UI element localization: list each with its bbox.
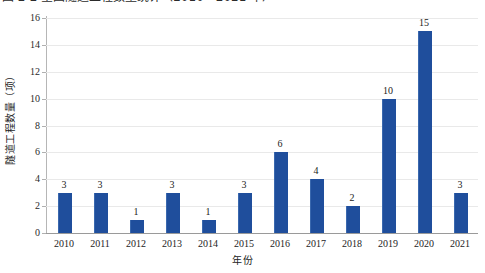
bar[interactable] (418, 31, 432, 233)
x-axis-title: 年份 (0, 255, 485, 266)
x-axis-tick-label: 2012 (116, 238, 156, 249)
bar[interactable] (274, 152, 288, 233)
y-axis-tick-mark (42, 179, 46, 180)
bar-value-label: 3 (49, 180, 79, 190)
bar-value-label: 10 (373, 86, 403, 96)
y-axis-tick-label: 4 (18, 174, 40, 184)
y-axis-tick-mark (42, 126, 46, 127)
bar-value-label: 3 (445, 180, 475, 190)
bar-value-label: 1 (121, 207, 151, 217)
y-axis-tick-mark (42, 45, 46, 46)
y-axis-tick-label: 8 (18, 121, 40, 131)
y-axis-tick-mark (42, 99, 46, 100)
x-axis-tick-label: 2011 (80, 238, 120, 249)
x-axis-line (46, 233, 478, 234)
bar-value-label: 4 (301, 166, 331, 176)
bar[interactable] (58, 193, 72, 233)
plot-area (46, 18, 478, 233)
gridline (46, 206, 478, 207)
bar[interactable] (382, 99, 396, 233)
y-axis-tick-label: 2 (18, 201, 40, 211)
gridline (46, 72, 478, 73)
bar-value-label: 1 (193, 207, 223, 217)
x-axis-tick-label: 2021 (440, 238, 480, 249)
x-axis-tick-label: 2010 (44, 238, 84, 249)
y-axis-tick-labels: 0246810121416 (12, 0, 40, 273)
y-axis-tick-mark (42, 18, 46, 19)
gridline (46, 45, 478, 46)
y-axis-tick-mark (42, 233, 46, 234)
bar-value-label: 3 (229, 180, 259, 190)
bar-value-label: 6 (265, 139, 295, 149)
gridline (46, 126, 478, 127)
bar-value-label: 2 (337, 193, 367, 203)
x-axis-tick-label: 2018 (332, 238, 372, 249)
bar-value-label: 15 (409, 18, 439, 28)
bar[interactable] (238, 193, 252, 233)
x-axis-tick-label: 2016 (260, 238, 300, 249)
x-axis-tick-label: 2019 (368, 238, 408, 249)
y-axis-tick-label: 10 (18, 94, 40, 104)
x-axis-tick-label: 2014 (188, 238, 228, 249)
y-axis-tick-mark (42, 152, 46, 153)
x-axis-tick-label: 2017 (296, 238, 336, 249)
bar[interactable] (454, 193, 468, 233)
y-axis-tick-label: 6 (18, 147, 40, 157)
x-axis-tick-label: 2013 (152, 238, 192, 249)
bar[interactable] (202, 220, 216, 233)
y-axis-tick-label: 12 (18, 67, 40, 77)
bar-value-label: 3 (157, 180, 187, 190)
bar[interactable] (310, 179, 324, 233)
x-axis-tick-label: 2015 (224, 238, 264, 249)
y-axis-tick-label: 0 (18, 228, 40, 238)
y-axis-tick-mark (42, 206, 46, 207)
gridline (46, 99, 478, 100)
y-axis-tick-mark (42, 72, 46, 73)
bar[interactable] (130, 220, 144, 233)
bar[interactable] (94, 193, 108, 233)
gridline (46, 152, 478, 153)
bar[interactable] (346, 206, 360, 233)
x-axis-tick-label: 2020 (404, 238, 444, 249)
bar[interactable] (166, 193, 180, 233)
bar-chart: 隧道工程数量（项） 0246810121416 年份 3201032011120… (0, 0, 485, 273)
y-axis-tick-label: 16 (18, 13, 40, 23)
bar-value-label: 3 (85, 180, 115, 190)
y-axis-tick-label: 14 (18, 40, 40, 50)
